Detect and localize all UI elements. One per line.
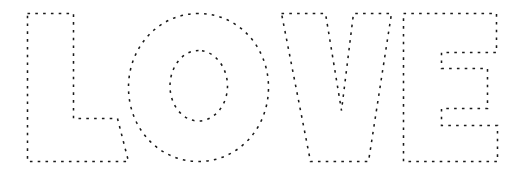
love-tracing-artwork: LOVE xyxy=(0,0,516,181)
artwork-background xyxy=(0,0,516,181)
tracing-canvas: LOVE xyxy=(0,0,516,181)
